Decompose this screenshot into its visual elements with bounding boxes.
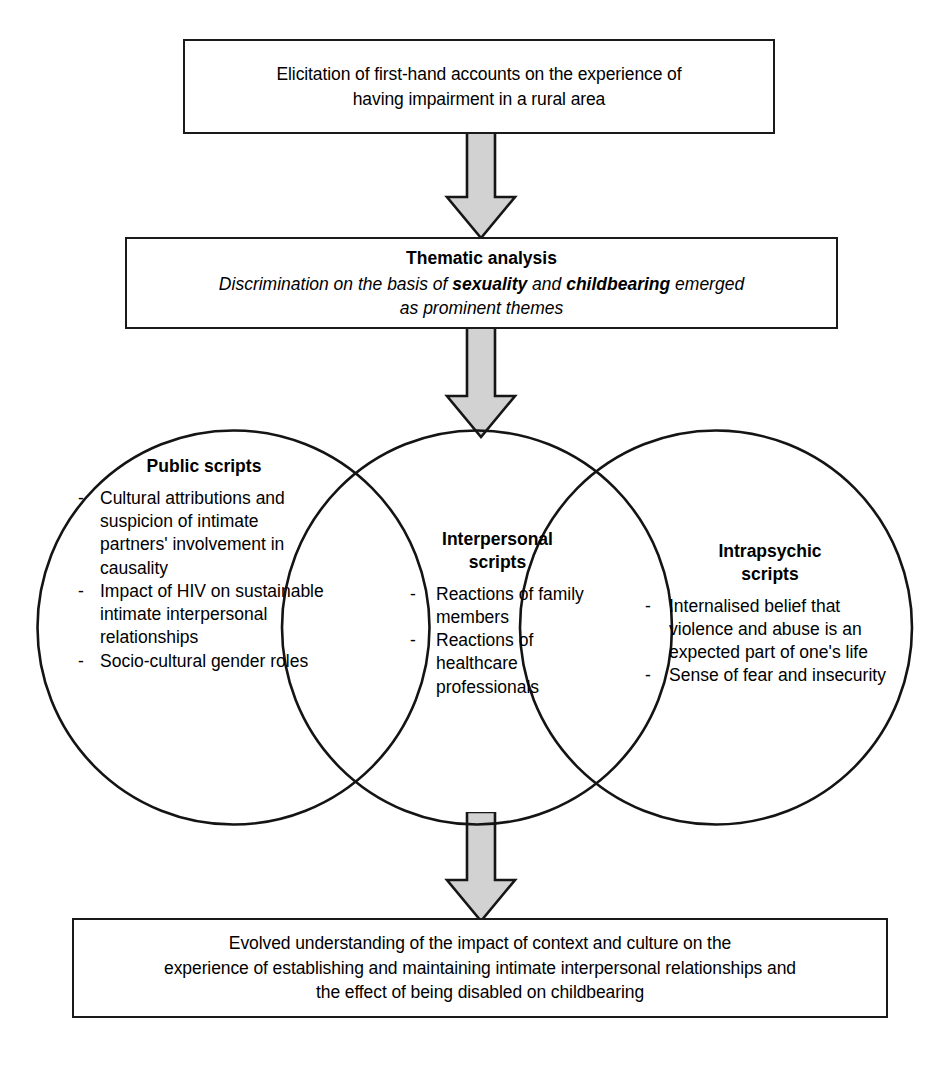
list-item: -Socio-cultural gender roles (78, 650, 330, 673)
thematic-analysis-subtitle-line-2: as prominent themes (400, 296, 563, 320)
list-item: -Sense of fear and insecurity (645, 664, 895, 687)
dash-bullet-icon: - (78, 650, 92, 673)
top-box-line-1: Elicitation of first-hand accounts on th… (276, 62, 681, 87)
public-scripts-title: Public scripts (78, 455, 330, 478)
thematic-keyword-sexuality: sexuality (452, 274, 527, 294)
arrow-top-to-thematic-icon (441, 131, 521, 241)
interpersonal-scripts-content: Interpersonal scripts -Reactions of fami… (410, 528, 585, 699)
dash-bullet-icon: - (78, 580, 92, 603)
bottom-box-line-2: experience of establishing and maintaini… (164, 956, 796, 981)
thematic-keyword-childbearing: childbearing (566, 274, 670, 294)
process-box-evolved-understanding: Evolved understanding of the impact of c… (72, 918, 888, 1018)
thematic-analysis-subtitle-line-1: Discrimination on the basis of sexuality… (219, 272, 744, 296)
arrow-thematic-to-circles-icon (441, 326, 521, 440)
thematic-analysis-heading: Thematic analysis (406, 247, 557, 271)
intrapsychic-scripts-list: -Internalised belief that violence and a… (645, 595, 895, 688)
process-box-thematic-analysis: Thematic analysis Discrimination on the … (125, 237, 838, 329)
thematic-text-post: emerged (670, 274, 744, 294)
intrapsychic-scripts-title: Intrapsychic scripts (645, 540, 895, 586)
dash-bullet-icon: - (645, 595, 659, 618)
list-item-label: Socio-cultural gender roles (100, 651, 308, 671)
list-item-label: Internalised belief that violence and ab… (669, 596, 868, 663)
list-item: -Reactions of family members (410, 583, 585, 630)
bottom-box-line-3: the effect of being disabled on childbea… (316, 980, 644, 1005)
dash-bullet-icon: - (645, 664, 659, 687)
process-box-elicitation: Elicitation of first-hand accounts on th… (183, 39, 775, 134)
dash-bullet-icon: - (410, 629, 424, 652)
interpersonal-scripts-title-line-1: Interpersonal (410, 528, 585, 551)
interpersonal-scripts-list: -Reactions of family members -Reactions … (410, 583, 585, 699)
list-item: -Internalised belief that violence and a… (645, 595, 895, 665)
intrapsychic-scripts-title-line-2: scripts (645, 563, 895, 586)
arrow-circles-to-bottom-icon (441, 812, 521, 924)
dash-bullet-icon: - (410, 583, 424, 606)
bottom-box-line-1: Evolved understanding of the impact of c… (229, 931, 731, 956)
top-box-line-2: having impairment in a rural area (353, 87, 606, 112)
dash-bullet-icon: - (78, 487, 92, 510)
public-scripts-content: Public scripts -Cultural attributions an… (78, 455, 330, 673)
thematic-text-pre: Discrimination on the basis of (219, 274, 452, 294)
public-scripts-list: -Cultural attributions and suspicion of … (78, 487, 330, 673)
list-item-label: Cultural attributions and suspicion of i… (100, 488, 285, 578)
list-item-label: Reactions of healthcare professionals (436, 630, 539, 697)
intrapsychic-scripts-content: Intrapsychic scripts -Internalised belie… (645, 540, 895, 688)
list-item: -Impact of HIV on sustainable intimate i… (78, 580, 330, 650)
thematic-text-mid: and (527, 274, 566, 294)
list-item: -Reactions of healthcare professionals (410, 629, 585, 699)
list-item: -Cultural attributions and suspicion of … (78, 487, 330, 580)
list-item-label: Sense of fear and insecurity (669, 665, 886, 685)
interpersonal-scripts-title-line-2: scripts (410, 551, 585, 574)
list-item-label: Reactions of family members (436, 584, 584, 627)
diagram-canvas: Elicitation of first-hand accounts on th… (0, 0, 952, 1069)
intrapsychic-scripts-title-line-1: Intrapsychic (645, 540, 895, 563)
list-item-label: Impact of HIV on sustainable intimate in… (100, 581, 324, 648)
interpersonal-scripts-title: Interpersonal scripts (410, 528, 585, 574)
